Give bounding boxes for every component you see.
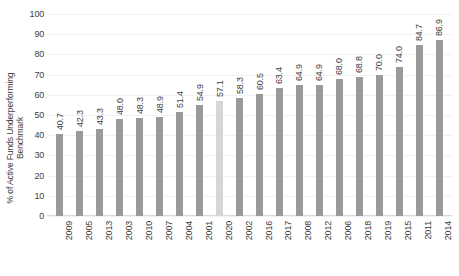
bar-slot: 68.8 — [349, 14, 369, 216]
x-axis-tick: 2002 — [230, 219, 250, 274]
bar-slot: 84.7 — [409, 14, 429, 216]
bar[interactable]: 64.9 — [296, 85, 303, 216]
y-axis-tick-label: 30 — [14, 150, 44, 160]
y-axis-tick-label: 100 — [14, 9, 44, 19]
x-axis-tick: 2012 — [309, 219, 329, 274]
bar-slot: 70.0 — [369, 14, 389, 216]
bar-slot: 54.9 — [190, 14, 210, 216]
bar-slot: 42.3 — [70, 14, 90, 216]
bar-slot: 63.4 — [269, 14, 289, 216]
x-axis-ticks: 2009200520132003201020072004200120202002… — [47, 219, 452, 274]
x-axis-tick: 2006 — [329, 219, 349, 274]
bar[interactable]: 64.9 — [316, 85, 323, 216]
bar[interactable]: 74.0 — [396, 67, 403, 216]
x-axis-tick: 2014 — [429, 219, 449, 274]
x-axis-tick: 2003 — [110, 219, 130, 274]
bar-slot: 57.1 — [210, 14, 230, 216]
x-axis-tick: 2017 — [269, 219, 289, 274]
y-axis-tick-label: 80 — [14, 49, 44, 59]
bar-slot: 60.5 — [250, 14, 270, 216]
y-axis-tick-label: 40 — [14, 130, 44, 140]
x-axis-tick: 2005 — [70, 219, 90, 274]
bar[interactable]: 68.0 — [336, 79, 343, 216]
x-axis-tick: 2001 — [190, 219, 210, 274]
bar-slot: 68.0 — [329, 14, 349, 216]
bar[interactable]: 63.4 — [276, 88, 283, 216]
bar[interactable]: 86.9 — [436, 40, 443, 216]
bar-slot: 40.7 — [50, 14, 70, 216]
plot-area: 40.742.343.348.048.348.951.454.957.158.3… — [47, 14, 452, 216]
bar[interactable]: 60.5 — [256, 94, 263, 216]
bar-slot: 43.3 — [90, 14, 110, 216]
y-axis-tick-label: 10 — [14, 191, 44, 201]
bar[interactable]: 57.1 — [216, 101, 223, 216]
bar[interactable]: 84.7 — [416, 45, 423, 216]
x-axis-tick: 2019 — [369, 219, 389, 274]
y-axis-tick-label: 20 — [14, 171, 44, 181]
x-axis-tick: 2004 — [170, 219, 190, 274]
x-axis-tick: 2009 — [50, 219, 70, 274]
x-axis-tick: 2013 — [90, 219, 110, 274]
bar[interactable]: 58.3 — [236, 98, 243, 216]
bar-slot: 48.9 — [150, 14, 170, 216]
bar-slot: 48.0 — [110, 14, 130, 216]
bar-chart: % of Active Funds Underperforming Benchm… — [0, 0, 459, 276]
x-axis-tick: 2010 — [130, 219, 150, 274]
x-axis-tick: 2018 — [349, 219, 369, 274]
x-axis-tick: 2016 — [250, 219, 270, 274]
bar-slot: 64.9 — [289, 14, 309, 216]
bar-slot: 74.0 — [389, 14, 409, 216]
bar-slot: 64.9 — [309, 14, 329, 216]
bar-slot: 48.3 — [130, 14, 150, 216]
bar[interactable]: 51.4 — [176, 112, 183, 216]
x-axis-tick: 2007 — [150, 219, 170, 274]
bar[interactable]: 70.0 — [376, 75, 383, 216]
bar-series: 40.742.343.348.048.348.951.454.957.158.3… — [47, 14, 452, 216]
y-axis-tick-label: 50 — [14, 110, 44, 120]
bar-slot: 58.3 — [230, 14, 250, 216]
y-axis-ticks: 1009080706050403020100 — [14, 14, 44, 216]
x-axis-tick: 2015 — [389, 219, 409, 274]
y-axis-tick-label: 70 — [14, 70, 44, 80]
x-axis-tick: 2011 — [409, 219, 429, 274]
y-axis-tick-label: 60 — [14, 90, 44, 100]
bar[interactable]: 68.8 — [356, 77, 363, 216]
x-axis-tick: 2008 — [289, 219, 309, 274]
y-axis-tick-label: 0 — [14, 211, 44, 221]
bar[interactable]: 54.9 — [196, 105, 203, 216]
y-axis-tick-label: 90 — [14, 29, 44, 39]
bar-slot: 51.4 — [170, 14, 190, 216]
x-axis-tick: 2020 — [210, 219, 230, 274]
bar-slot: 86.9 — [429, 14, 449, 216]
